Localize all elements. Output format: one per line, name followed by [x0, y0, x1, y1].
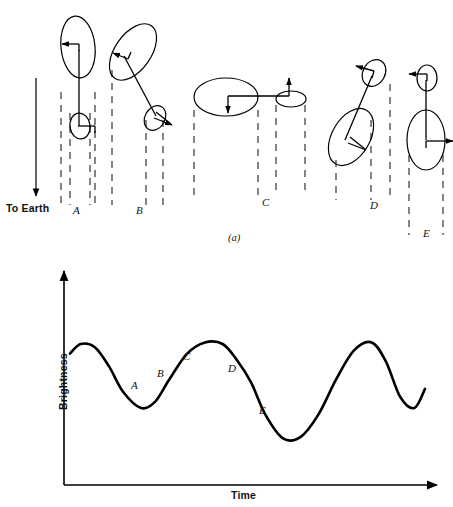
phase-label-c: C: [262, 197, 269, 208]
config-b-group: [100, 15, 172, 205]
config-a-dashed-lines: [61, 92, 95, 205]
config-b-primary-star: [100, 15, 166, 88]
phase-label-e: E: [423, 228, 430, 239]
config-a-primary-star: [58, 14, 98, 79]
x-axis-label: Time: [231, 490, 256, 501]
panel-a-diagram: [0, 0, 453, 260]
phase-label-b: B: [136, 205, 143, 216]
curve-label-c: C: [183, 351, 190, 362]
config-b-orbit-axis: [124, 56, 156, 116]
config-d-dashed-lines: [336, 84, 390, 200]
phase-label-d: D: [370, 200, 378, 211]
config-b-primary-spin-arrow: [113, 53, 128, 59]
curve-label-b: B: [157, 368, 164, 379]
to-earth-label: To Earth: [6, 203, 49, 214]
panel-a-caption: (a): [228, 232, 240, 243]
config-e-dashed-lines: [409, 155, 443, 235]
config-c-primary-star: [194, 78, 258, 116]
brightness-curve: [70, 341, 425, 440]
config-a-group: [58, 14, 98, 205]
phase-label-a: A: [73, 205, 80, 216]
config-c-dashed-lines: [194, 105, 305, 195]
y-axis-label: Brightness: [57, 353, 69, 410]
curve-label-e: E: [259, 405, 266, 416]
curve-label-d: D: [228, 363, 236, 374]
config-e-group: [407, 65, 453, 235]
config-c-secondary-star: [276, 91, 306, 107]
curve-label-a: A: [131, 380, 138, 391]
config-b-dashed-lines: [112, 70, 163, 205]
config-d-orbit-axis: [345, 76, 372, 140]
config-d-group: [319, 55, 390, 200]
config-c-group: [194, 78, 306, 195]
eclipsing-binary-figure: To Earth A B C D E (a) A B C D E Brightn…: [0, 0, 453, 507]
